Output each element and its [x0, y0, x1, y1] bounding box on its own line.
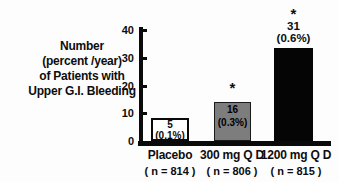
y-tick-mark [143, 112, 147, 115]
y-tick-label-10: 10 [106, 107, 134, 119]
annotation-1200mg: * 31 (0.6%) [263, 7, 324, 45]
bar-percent-label: (0.3%) [215, 116, 250, 129]
y-tick-label-40: 40 [106, 24, 134, 36]
significance-asterisk-1200mg: * [263, 7, 324, 20]
y-tick-mark [143, 29, 147, 32]
bar-1200mg-qd [274, 48, 313, 141]
y-tick-label-20: 20 [106, 80, 134, 92]
bar-placebo: 5 (0.1%) [151, 118, 189, 141]
x-axis [138, 141, 331, 146]
bar-300mg-qd: 16 (0.3%) [214, 102, 251, 141]
y-tick-mark [143, 57, 147, 60]
y-tick-label-0: 0 [106, 135, 134, 147]
significance-asterisk-300mg: * [214, 81, 251, 94]
bar-value-label: 31 [263, 20, 324, 32]
n-label-1200mg: ( n = 815 ) [256, 165, 336, 177]
bar-value-label: 16 [215, 103, 250, 116]
x-tick-label-1200mg: 1200 mg Q D [256, 149, 336, 162]
bar-percent-label: (0.6%) [263, 32, 324, 45]
bar-percent-label: (0.1%) [153, 131, 187, 142]
bar-value-label: 5 [153, 120, 187, 131]
y-tick-mark [143, 85, 147, 88]
bar-chart-upper-gi-bleeding: Number (percent /year) of Patients with … [0, 0, 339, 182]
y-tick-label-30: 30 [106, 52, 134, 64]
